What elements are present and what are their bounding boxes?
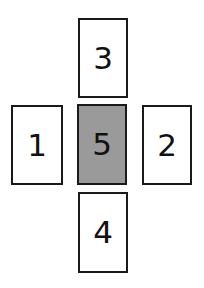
card-top[interactable]: 3 — [78, 18, 128, 98]
card-bottom[interactable]: 4 — [78, 192, 128, 273]
card-left-label: 1 — [27, 129, 47, 160]
card-right-label: 2 — [157, 129, 177, 160]
card-center-highlighted[interactable]: 5 — [77, 104, 127, 185]
card-top-label: 3 — [93, 42, 113, 73]
card-left[interactable]: 1 — [11, 105, 63, 185]
card-right[interactable]: 2 — [142, 105, 192, 185]
diagram-canvas: 3 1 5 2 4 — [0, 0, 204, 288]
card-bottom-label: 4 — [93, 217, 113, 248]
card-center-label: 5 — [92, 129, 112, 160]
